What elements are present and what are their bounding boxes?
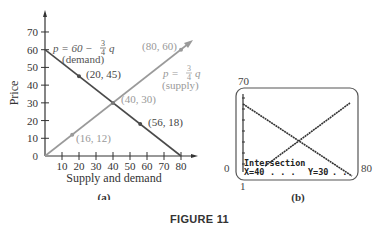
label-80-60: (80, 60) — [142, 40, 177, 53]
demand-eq-num: 3 — [101, 39, 105, 48]
y-tick-label: 50 — [27, 61, 39, 73]
y-tick-label: 30 — [27, 97, 39, 109]
y-tick-label: 60 — [27, 44, 39, 56]
supply-label: (supply) — [162, 79, 199, 92]
window-ymax: 70 — [238, 75, 250, 87]
label-40-30: (40, 30) — [121, 93, 156, 106]
window-xmin: 0 — [224, 162, 230, 174]
label-56-18: (56, 18) — [148, 116, 183, 129]
point-56-18 — [138, 122, 142, 126]
point-80-60 — [179, 48, 183, 52]
window-ymin: 1 — [240, 180, 246, 192]
y-axis-title: Price — [7, 81, 21, 106]
intersection-y: Y=30 — [308, 167, 328, 177]
y-ticks: 10203040506070 — [27, 26, 49, 144]
intersection-dots-1: . . . — [270, 167, 296, 177]
intersection-x: X=40 — [244, 167, 264, 177]
y-tick-label: 40 — [27, 79, 39, 91]
chart-a: 10203040506070 1020304050607080 0 (20, 4… — [0, 0, 220, 200]
origin-label: 0 — [33, 150, 39, 162]
y-tick-label: 20 — [27, 115, 39, 127]
intersection-dots-2: . . — [332, 167, 347, 177]
supply-equation: p = — [162, 67, 179, 79]
demand-label: (demand) — [62, 53, 104, 66]
panel-label-b: (b) — [291, 191, 305, 204]
panel-label-a: (a) — [98, 191, 111, 200]
calculator-screen: 70 Intersection X=40 . . . Y=30 . . 0 80… — [220, 0, 390, 210]
x-axis-arrow-icon — [191, 154, 198, 158]
window-xmax: 80 — [361, 162, 373, 174]
supply-eq-q: q — [195, 67, 201, 79]
supply-eq-num: 3 — [187, 64, 191, 73]
point-20-45 — [77, 74, 81, 78]
chart-b: 70 Intersection X=40 . . . Y=30 . . 0 80… — [220, 0, 390, 210]
label-16-12: (16, 12) — [76, 132, 111, 145]
figure-label: FIGURE 11 — [170, 213, 229, 225]
y-tick-label: 10 — [27, 132, 39, 144]
x-tick-label: 80 — [176, 160, 188, 172]
x-axis-title: Supply and demand — [66, 171, 161, 185]
label-20-45: (20, 45) — [86, 68, 121, 81]
point-16-12 — [70, 133, 74, 137]
y-axis-arrow-icon — [43, 10, 47, 17]
demand-eq-q: q — [109, 42, 115, 54]
x-ticks: 1020304050607080 — [57, 152, 188, 172]
y-tick-label: 70 — [27, 26, 39, 38]
point-40-30 — [111, 101, 115, 105]
